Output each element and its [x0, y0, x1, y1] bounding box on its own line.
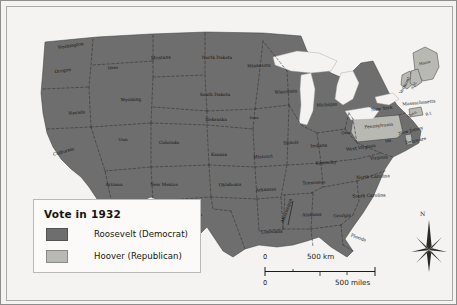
state-label-wyoming: Wyoming: [120, 97, 141, 103]
state-label-new-mexico: New Mexico: [150, 182, 178, 187]
state-label-colorado: Colorado: [159, 140, 180, 145]
state-label-iowa: Iowa: [249, 116, 259, 120]
state-label-illinois: Illinois: [283, 140, 299, 146]
state-label-south-dakota: South Dakota: [200, 92, 231, 97]
state-label-kansas: Kansas: [211, 152, 228, 157]
legend-title: Vote in 1932: [44, 208, 121, 220]
state-label-north-dakota: North Dakota: [202, 55, 233, 60]
state-label-idaho: Idaho: [107, 66, 119, 71]
compass-star-icon: [405, 216, 449, 274]
legend-swatch-hoover: [46, 250, 68, 263]
legend-label-hoover: Hoover (Republican): [94, 250, 182, 263]
scale-km-zero: 0: [263, 253, 267, 261]
map-frame: WashingtonOregonIdahoMontanaNorth Dakota…: [0, 0, 457, 305]
state-label-nebraska: Nebraska: [205, 117, 227, 122]
state-label-indiana: Indiana: [310, 143, 327, 149]
state-label-minnesota: Minnesota: [247, 63, 271, 69]
us-election-map: WashingtonOregonIdahoMontanaNorth Dakota…: [1, 1, 457, 305]
scale-miles-label: 500 miles: [335, 278, 370, 287]
state-label-georgia: Georgia: [333, 213, 351, 219]
scale-miles-zero: 0: [263, 279, 267, 287]
scale-km-label: 500 km: [307, 252, 334, 261]
state-label-arizona: Arizona: [104, 182, 122, 187]
state-label-oklahoma: Oklahoma: [219, 182, 242, 187]
state-label-ohio: Ohio: [341, 131, 351, 135]
compass-rose: N: [405, 210, 449, 272]
legend-swatch-roosevelt: [46, 228, 68, 241]
state-label-louisiana: Louisiana: [261, 229, 283, 235]
state-label-alabama: Alabama: [301, 212, 322, 218]
map-legend: Vote in 1932 Roosevelt (Democrat) Hoover…: [33, 199, 201, 273]
scale-bar: 0 500 km 0 500 miles: [263, 253, 383, 287]
legend-label-roosevelt: Roosevelt (Democrat): [94, 228, 188, 241]
state-label-missouri: Missouri: [253, 153, 273, 159]
state-label-montana: Montana: [151, 54, 171, 60]
state-label-utah: Utah: [118, 138, 128, 142]
